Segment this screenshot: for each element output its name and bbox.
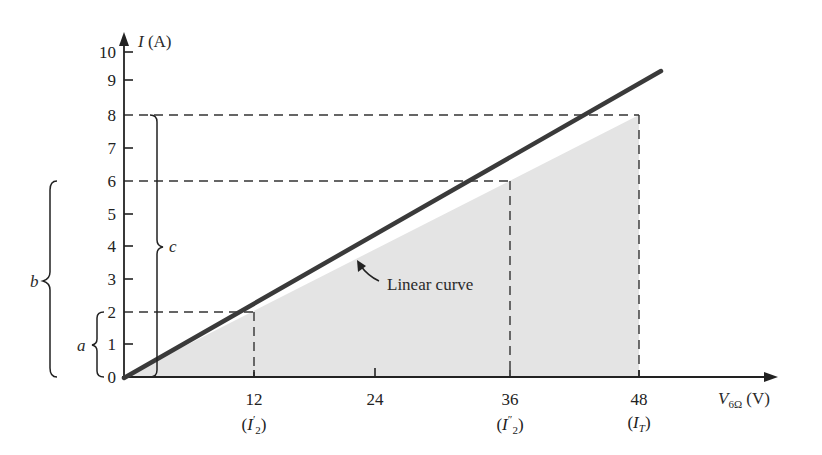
y-tick-label: 10 xyxy=(86,44,116,61)
x-tick-sublabel-48: (IT) xyxy=(614,414,664,434)
y-tick-label: 6 xyxy=(86,173,116,190)
y-axis-arrow-icon xyxy=(119,32,129,46)
x-axis-label: V6Ω (V) xyxy=(718,390,770,410)
x-axis-unit: (V) xyxy=(746,389,770,408)
y-tick-label: 9 xyxy=(86,72,116,89)
y-tick-label: 1 xyxy=(86,336,116,353)
y-tick-label: 5 xyxy=(86,206,116,223)
y-tick-label: 0 xyxy=(86,369,116,386)
y-tick-marks xyxy=(124,52,133,344)
x-tick-label: 36 xyxy=(485,391,535,408)
y-axis-unit: (A) xyxy=(148,32,172,51)
y-tick-label: 8 xyxy=(86,107,116,124)
x-tick-sublabel-36: (I″2) xyxy=(485,414,535,436)
sublabel-sub: 2 xyxy=(255,424,261,436)
x-axis-variable: V xyxy=(718,389,728,408)
y-axis-variable: I xyxy=(138,32,144,51)
sublabel-sub: 2 xyxy=(512,424,518,436)
y-axis-label: I (A) xyxy=(138,33,172,50)
brace-b-label: b xyxy=(30,273,39,290)
y-tick-label: 7 xyxy=(86,140,116,157)
x-axis-subscript: 6Ω xyxy=(728,398,742,410)
x-axis-arrow-icon xyxy=(764,372,778,382)
brace-a-label: a xyxy=(77,337,86,354)
x-tick-sublabel-12: (I′2) xyxy=(229,414,279,436)
linear-curve-annotation: Linear curve xyxy=(387,276,473,293)
y-tick-label: 2 xyxy=(86,304,116,321)
area-under-curve xyxy=(124,115,639,377)
sublabel-sub: T xyxy=(639,422,645,434)
y-tick-label: 4 xyxy=(86,238,116,255)
x-tick-label: 48 xyxy=(614,391,664,408)
x-tick-label: 24 xyxy=(350,391,400,408)
brace-c-label: c xyxy=(169,238,177,255)
brace-c xyxy=(150,115,163,377)
brace-b xyxy=(43,181,57,377)
x-tick-label: 12 xyxy=(229,391,279,408)
y-tick-label: 3 xyxy=(86,271,116,288)
chart-canvas xyxy=(0,0,822,455)
